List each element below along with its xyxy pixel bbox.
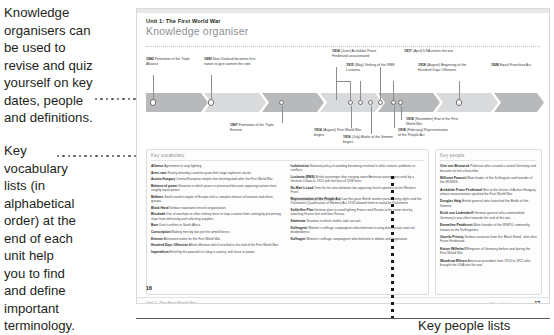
key-people-title: Key people <box>436 150 541 160</box>
timeline-stem <box>153 75 154 100</box>
vocabulary-entry: Entente Alternative name for the First W… <box>151 237 285 241</box>
timeline-label-year: 1893 <box>204 57 212 61</box>
annotation-line: organisers can <box>4 22 130 40</box>
person-entry: Woodrow Wilson American president from 1… <box>436 259 541 268</box>
vocabulary-definition: Allied offensive which resulted in the e… <box>189 243 279 247</box>
timeline-node[interactable] <box>208 99 214 105</box>
timeline-label-paren: (July) <box>352 135 361 139</box>
timeline-label: 1882 Formation of the Triple Alliance <box>146 57 198 66</box>
header-divider <box>146 46 540 47</box>
timeline-node[interactable] <box>150 99 156 105</box>
vocabulary-term: Representation of the People Act <box>291 197 341 201</box>
annotation-line: important <box>4 300 130 318</box>
person-name: Douglas Haig <box>440 199 461 203</box>
timeline-node[interactable] <box>348 100 353 105</box>
annotation-line: order) at the <box>4 212 130 230</box>
vocabulary-definition: Belief by the powerful in ruling a count… <box>170 250 256 254</box>
vocabulary-definition: Alternative name for the First World War… <box>163 237 220 241</box>
timeline-segment <box>262 93 324 112</box>
leader-dots-vocabulary <box>57 153 147 159</box>
vocabulary-definition: Use of warships or other military force … <box>151 212 281 220</box>
timeline-node[interactable] <box>279 100 284 105</box>
unit-label: Unit 1: The First World War <box>146 18 248 24</box>
timeline-stem <box>371 106 372 134</box>
vocabulary-definition: Situation in which neither side can win. <box>306 219 361 223</box>
person-name: Emmeline Pankhurst <box>440 223 473 227</box>
page-header: Unit 1: The First World War Knowledge or… <box>146 18 248 37</box>
vocabulary-entry: Boer Dutch settlers in South Africa. <box>151 223 285 227</box>
timeline-node[interactable] <box>391 100 396 105</box>
timeline-label-detail: Sinking of the RMS Lusitania <box>346 63 395 72</box>
timeline-label-paren: (June) <box>341 49 351 53</box>
timeline-stem <box>401 106 402 120</box>
vocabulary-term: Stalemate <box>291 219 306 223</box>
timeline-label-year: 1918 <box>398 128 406 132</box>
timeline-label-year: 1928 <box>491 63 499 67</box>
timeline-band <box>146 93 542 112</box>
timeline-label-detail: USA enters the war <box>423 49 453 53</box>
timeline-node[interactable] <box>378 100 383 105</box>
timeline-label-detail: Battle of the Somme begins <box>343 135 393 144</box>
person-entry: Archduke Franz Ferdinand Heir to the thr… <box>436 188 541 197</box>
timeline-label-paren: (November) <box>415 117 433 121</box>
annotation-line: end of each <box>4 230 130 248</box>
key-vocabulary-panel: Key vocabulary Alliance Agreement to sto… <box>146 149 429 295</box>
timeline-stem <box>336 67 337 100</box>
person-name: Woodrow Wilson <box>440 259 467 263</box>
annotation-line: revise and quiz <box>4 57 130 75</box>
vocabulary-entry: Representation of the People Act Law tha… <box>291 197 425 206</box>
timeline-node[interactable] <box>358 100 363 105</box>
timeline-node[interactable] <box>368 100 373 105</box>
person-entry: Gavrilo Princip Serbian assassin from th… <box>436 235 541 244</box>
vocabulary-entry: Balance of power Situation in which peac… <box>151 184 285 193</box>
vocabulary-entry: Isolationism National policy of avoiding… <box>291 164 425 173</box>
footer-right-text: Knowledge organiser17 <box>491 300 540 304</box>
annotation-line: lists (in <box>4 177 130 195</box>
timeline-segment <box>436 93 498 112</box>
key-vocabulary-title: Key vocabulary <box>147 150 428 160</box>
person-name: Archduke Franz Ferdinand <box>440 188 482 192</box>
annotation-knowledge-organisers: Knowledge organisers can be used to revi… <box>4 4 130 127</box>
timeline-node[interactable] <box>456 99 462 105</box>
vocabulary-entry: Alliance Agreement to stop fighting. <box>151 164 285 168</box>
vocabulary-definition: Dutch settlers in South Africa. <box>159 223 201 227</box>
footer-right-label: Knowledge organiser <box>491 301 530 304</box>
timeline-label: 1928 Equal Franchise Act <box>491 63 543 68</box>
timeline-label-paren: (February) <box>407 128 423 132</box>
vocabulary-term: Imperialism <box>151 250 169 254</box>
vocabulary-term: Balance of power <box>151 184 177 188</box>
annotation-line: Knowledge <box>4 4 130 22</box>
vocabulary-term: Entente <box>151 237 163 241</box>
page-number: 16 <box>146 285 152 291</box>
timeline-label-year: 1917 <box>404 49 412 53</box>
vocabulary-definition: Serbian nationalist terrorist organisati… <box>169 206 226 210</box>
timeline-segment <box>378 93 440 112</box>
vocabulary-term: Suffragist <box>291 237 306 241</box>
timeline-label-paren: (April) <box>413 49 422 53</box>
timeline-label: 1914 (June) Archduke Franz Ferdinand ass… <box>332 49 384 58</box>
timeline-stem <box>350 81 351 100</box>
vocabulary-term: Schlieffen Plan <box>291 208 314 212</box>
timeline-label: 1918 (February) Representation of the Pe… <box>398 128 450 137</box>
annotation-line: and definitions. <box>4 109 130 127</box>
annotation-line: you to find <box>4 265 130 283</box>
person-name: Kaiser Wilhelm II <box>440 247 466 251</box>
vocabulary-entry: Schlieffen Plan German plan to avoid fig… <box>291 208 425 217</box>
person-entry: Millicent Fawcett Main leader of the Suf… <box>436 176 541 185</box>
timeline-node[interactable] <box>398 100 403 105</box>
vocabulary-term: Isolationism <box>291 164 310 168</box>
timeline-label: 1918 (November) End of the First World W… <box>406 117 458 126</box>
annotation-line: alphabetical <box>4 195 130 213</box>
annotation-key-people: Key people lists <box>418 318 510 333</box>
footer-page-number: 17 <box>534 300 540 304</box>
timeline-label: 1916 (July) Battle of the Somme begins <box>343 135 395 144</box>
vocabulary-entry: Lusitania (RMS) British passenger ship c… <box>291 175 425 184</box>
vocabulary-definition: Making men by law join the armed forces. <box>172 230 231 234</box>
vocabulary-entry: Blockade Use of warships or other milita… <box>151 212 285 221</box>
vocabulary-column-left: Alliance Agreement to stop fighting. Arm… <box>151 164 285 256</box>
vocabulary-entry: Imperialism Belief by the powerful in ru… <box>151 250 285 254</box>
annotation-line: and define <box>4 282 130 300</box>
person-entry: Emmeline Pankhurst Main founder of the W… <box>436 223 541 232</box>
timeline-label-paren: (August) <box>427 63 440 67</box>
